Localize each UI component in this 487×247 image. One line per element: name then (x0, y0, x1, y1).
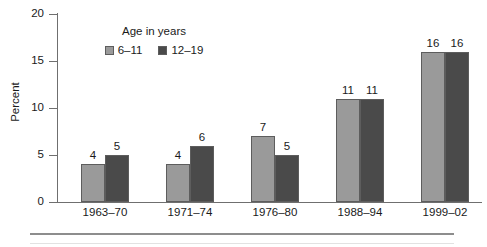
y-axis-tick-label: 0 (0, 196, 44, 208)
footer-divider-faint (30, 243, 454, 244)
x-axis-line (49, 202, 482, 203)
bar-chart-figure: Percent 05101520 45467511111616 1963–701… (0, 0, 487, 247)
legend-label: 6–11 (118, 44, 143, 56)
legend: Age in years 6–1112–19 (84, 25, 224, 56)
bar (190, 146, 214, 202)
bar-group: 1111 (336, 14, 384, 202)
bar (421, 52, 445, 202)
legend-label: 12–19 (171, 44, 203, 56)
bar-value-label: 4 (163, 149, 193, 161)
y-axis-tick-label: 15 (0, 55, 44, 67)
bar-group: 75 (251, 14, 299, 202)
x-axis-tick-label: 1999–02 (390, 206, 487, 219)
bar (360, 99, 384, 202)
bar (275, 155, 299, 202)
y-axis-tick-label: 20 (0, 8, 44, 20)
legend-entry: 6–11 (105, 44, 143, 56)
y-axis-tick-label: 5 (0, 149, 44, 161)
bar (445, 52, 469, 202)
y-axis-tick (49, 61, 57, 62)
legend-entries: 6–1112–19 (84, 44, 224, 56)
bar-group: 1616 (421, 14, 469, 202)
bar-value-label: 5 (272, 140, 302, 152)
bar (336, 99, 360, 202)
y-axis-tick (49, 14, 57, 15)
bar (81, 164, 105, 202)
y-axis-tick (49, 155, 57, 156)
y-axis-tick (49, 108, 57, 109)
bar-value-label: 11 (357, 84, 387, 96)
legend-swatch (158, 46, 167, 55)
bar-value-label: 7 (248, 121, 278, 133)
bar-value-label: 5 (102, 140, 132, 152)
legend-title: Age in years (84, 25, 224, 38)
bar-value-label: 6 (187, 131, 217, 143)
bar (105, 155, 129, 202)
legend-swatch (105, 46, 114, 55)
y-axis-tick-label: 10 (0, 102, 44, 114)
y-axis-tick (49, 202, 57, 203)
bar-value-label: 16 (442, 37, 472, 49)
bar (166, 164, 190, 202)
legend-entry: 12–19 (158, 44, 203, 56)
footer-divider (30, 233, 454, 235)
